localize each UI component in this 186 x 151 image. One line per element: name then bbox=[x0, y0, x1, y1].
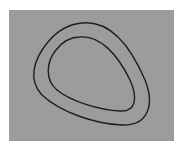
contour-figure bbox=[0, 0, 186, 151]
inner-contour-curve bbox=[48, 37, 134, 111]
